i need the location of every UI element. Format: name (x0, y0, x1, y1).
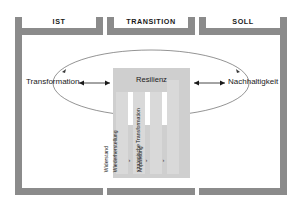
stage-bar-strategische-transformation: strategische Transformation (167, 80, 179, 174)
phase-label-soll: SOLL (199, 18, 287, 25)
stage-separator-2: › (146, 158, 148, 164)
phase-label-ist: IST (15, 18, 103, 25)
pole-label-nachhaltigkeit: Nachhaltigkeit (228, 78, 278, 86)
frame-bottom-segment-soll (199, 188, 287, 195)
pole-label-transformation: Transformation (26, 78, 80, 86)
stage-bar-label-strategische-transformation: strategische Transformation (136, 108, 141, 172)
channel-transition-base (107, 28, 195, 35)
stage-bar-label-widerstand: Widerstand (104, 146, 109, 172)
stage-separator-3: › (163, 158, 165, 164)
frame-bottom-segment-transition (107, 188, 195, 195)
channel-soll-base (199, 28, 287, 35)
stage-bar-anpassung: Anpassung (150, 92, 162, 174)
stage-separator-1: › (129, 158, 131, 164)
diagram-canvas: IST TRANSITION SOLL Resilienz Widerstand (0, 0, 302, 209)
frame-bottom-segment-ist (15, 188, 103, 195)
stage-bar-label-wiederherstellung: Wiederherstellung (113, 130, 118, 172)
channel-ist-base (15, 28, 103, 35)
frame-left-wall (15, 17, 22, 195)
phase-label-transition: TRANSITION (107, 18, 195, 25)
frame-right-wall (280, 17, 287, 195)
